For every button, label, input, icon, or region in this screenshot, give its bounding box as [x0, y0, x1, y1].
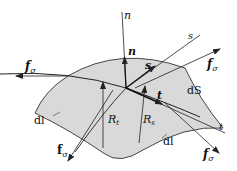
s-vector-label: s: [145, 59, 151, 72]
diagram-canvas: n n s s t t dS Rt Rs dl dl fσ fσ fσ fσ: [0, 0, 237, 171]
force-label-left: fσ: [24, 59, 36, 75]
force-label-upper-right: fσ: [206, 57, 218, 73]
t-axis-label: t: [219, 121, 224, 132]
dl-left-label: dl: [34, 114, 45, 127]
n-vector-label: n: [128, 45, 136, 58]
t-vector-label: t: [157, 89, 162, 102]
s-axis-label: s: [188, 30, 193, 41]
surface-tension-diagram: n n s s t t dS Rt Rs dl dl fσ fσ fσ fσ: [0, 0, 237, 171]
force-label-lower-left: fσ: [57, 143, 68, 159]
dl-bottom-label: dl: [163, 135, 174, 148]
force-label-lower-right: fσ: [202, 147, 214, 163]
n-axis-label: n: [124, 9, 131, 22]
area-label: dS: [187, 84, 202, 97]
surface-patch: [35, 58, 223, 158]
